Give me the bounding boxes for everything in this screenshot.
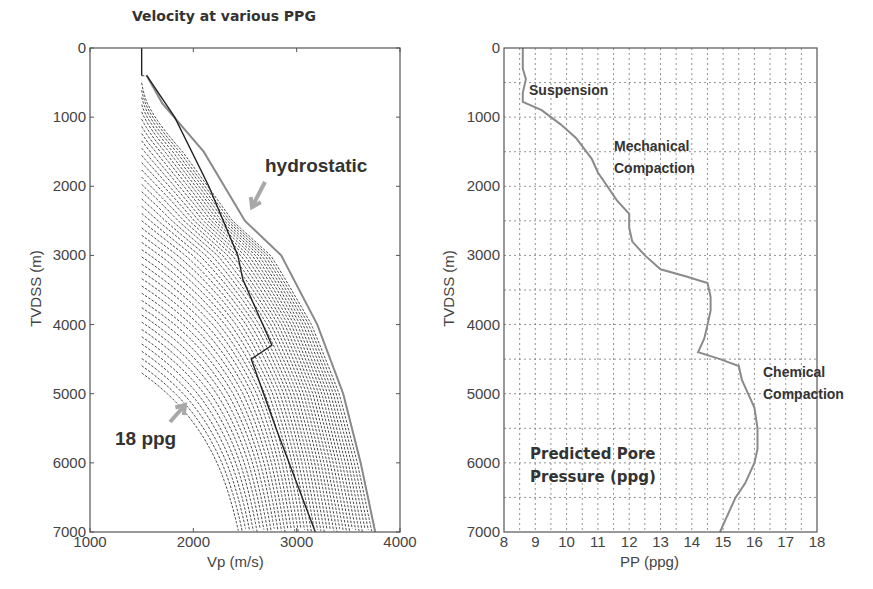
right-x-tick-label: 15 bbox=[715, 533, 732, 550]
velocity-ppg-curve bbox=[142, 308, 272, 532]
right-x-tick-label: 13 bbox=[652, 533, 669, 550]
ppg18-annotation: 18 ppg bbox=[115, 428, 176, 450]
velocity-ppg-curve bbox=[142, 315, 268, 531]
velocity-ppg-curve bbox=[142, 170, 334, 531]
mechanical-compaction-annotation-line2: Compaction bbox=[614, 160, 695, 176]
velocity-ppg-curve bbox=[142, 301, 275, 529]
velocity-ppg-curve bbox=[142, 257, 295, 531]
left-y-tick-label: 1000 bbox=[53, 108, 86, 125]
left-x-tick-label: 2000 bbox=[177, 533, 210, 550]
right-x-tick-label: 10 bbox=[558, 533, 575, 550]
left-y-tick-label: 4000 bbox=[53, 316, 86, 333]
velocity-ppg-curve bbox=[142, 83, 372, 531]
left-y-tick-label: 0 bbox=[78, 39, 86, 56]
left-y-tick-label: 2000 bbox=[53, 177, 86, 194]
mechanical-compaction-annotation-line1: Mechanical bbox=[614, 138, 689, 154]
left-plot-area bbox=[0, 0, 873, 589]
right-y-tick-label: 4000 bbox=[467, 316, 500, 333]
right-x-tick-label: 8 bbox=[500, 533, 508, 550]
right-x-tick-label: 12 bbox=[621, 533, 638, 550]
right-y-tick-label: 3000 bbox=[467, 246, 500, 263]
left-y-tick-label: 6000 bbox=[53, 454, 86, 471]
predicted-pore-pressure-annotation-line2: Pressure (ppg) bbox=[530, 468, 656, 486]
right-x-tick-label: 11 bbox=[590, 533, 606, 550]
hydrostatic-curve bbox=[147, 76, 375, 532]
left-y-tick-label: 3000 bbox=[53, 246, 86, 263]
left-x-tick-label: 4000 bbox=[383, 533, 416, 550]
right-y-tick-label: 5000 bbox=[467, 385, 500, 402]
left-x-tick-label: 1000 bbox=[73, 533, 106, 550]
right-y-tick-label: 1000 bbox=[467, 108, 500, 125]
suspension-annotation: Suspension bbox=[529, 82, 608, 98]
right-x-tick-label: 9 bbox=[531, 533, 539, 550]
right-x-tick-label: 18 bbox=[809, 533, 826, 550]
chemical-compaction-annotation-line1: Chemical bbox=[763, 364, 825, 380]
right-y-tick-label: 6000 bbox=[467, 454, 500, 471]
right-y-tick-label: 2000 bbox=[467, 177, 500, 194]
velocity-ppg-curve bbox=[142, 148, 343, 530]
right-x-tick-label: 17 bbox=[777, 533, 794, 550]
hydrostatic-annotation: hydrostatic bbox=[265, 155, 367, 177]
left-x-tick-label: 3000 bbox=[280, 533, 313, 550]
left-x-axis-label: Vp (m/s) bbox=[207, 553, 264, 570]
right-y-tick-label: 7000 bbox=[467, 523, 500, 540]
velocity-ppg-curve bbox=[142, 119, 356, 530]
right-x-tick-label: 16 bbox=[746, 533, 763, 550]
right-y-axis-label: TVDSS (m) bbox=[440, 249, 457, 329]
right-x-axis-label: PP (ppg) bbox=[620, 553, 679, 570]
velocity-ppg-curve bbox=[142, 322, 264, 529]
velocity-ppg-curve bbox=[142, 228, 308, 531]
chemical-compaction-annotation-line2: Compaction bbox=[763, 386, 844, 402]
left-y-axis-label: TVDSS (m) bbox=[27, 249, 44, 329]
left-y-tick-label: 5000 bbox=[53, 385, 86, 402]
velocity-ppg-curve bbox=[142, 126, 353, 528]
right-y-tick-label: 0 bbox=[492, 39, 500, 56]
right-x-tick-label: 14 bbox=[683, 533, 700, 550]
velocity-ppg-curve bbox=[142, 221, 312, 532]
predicted-pore-pressure-annotation-line1: Predicted Pore bbox=[530, 445, 656, 463]
